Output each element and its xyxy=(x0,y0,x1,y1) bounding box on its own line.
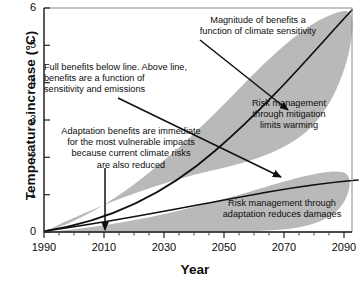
x-tick-label-1990: 1990 xyxy=(24,241,64,253)
x-axis-title: Year xyxy=(150,262,240,277)
y-tick-label-6: 6 xyxy=(20,1,36,13)
y-tick-label-4: 4 xyxy=(20,76,36,88)
y-tick-label-2: 2 xyxy=(20,150,36,162)
x-tick-label-2070: 2070 xyxy=(264,241,304,253)
x-tick-label-2090: 2090 xyxy=(324,241,364,253)
y-tick-label-0: 0 xyxy=(20,225,36,237)
x-tick-label-2010: 2010 xyxy=(84,241,124,253)
x-tick-label-2050: 2050 xyxy=(204,241,244,253)
x-tick-label-2030: 2030 xyxy=(144,241,184,253)
y-tick-label-1: 1 xyxy=(20,188,36,200)
annotation-risk-management-adaptation: Risk management through adaptation reduc… xyxy=(214,198,350,220)
figure-container: Temperature increase (°C) Year 6 5 4 3 2… xyxy=(0,0,364,285)
annotation-full-benefits-below-line: Full benefits below line. Above line, be… xyxy=(44,62,230,96)
annotation-magnitude-of-benefits: Magnitude of benefits a function of clim… xyxy=(168,15,348,37)
annotation-risk-management-mitigation: Risk management through mitigation limit… xyxy=(237,98,341,132)
annotation-adaptation-benefits-immediate: Adaptation benefits are immediate for th… xyxy=(42,126,220,171)
y-tick-label-5: 5 xyxy=(20,38,36,50)
y-tick-label-3: 3 xyxy=(20,113,36,125)
